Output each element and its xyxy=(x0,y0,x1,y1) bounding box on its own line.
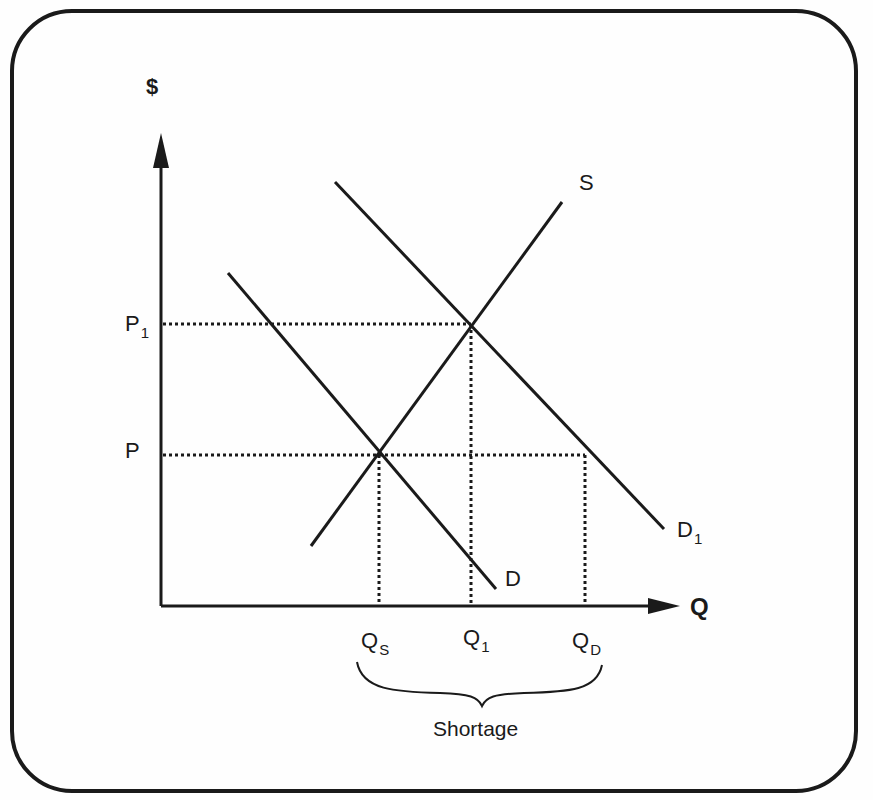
quantity-label-qs: QS xyxy=(361,630,389,652)
demand-label: D xyxy=(505,568,521,590)
x-axis xyxy=(161,598,680,614)
x-axis-label: Q xyxy=(690,595,709,619)
y-axis-label: $ xyxy=(146,76,158,98)
shortage-label: Shortage xyxy=(433,718,518,739)
quantity-label-q1-sub: 1 xyxy=(481,638,489,655)
y-axis-arrow-icon xyxy=(153,133,169,168)
quantity-label-qs-base: Q xyxy=(361,628,378,653)
demand-curve xyxy=(228,273,496,589)
shifted-demand-curve xyxy=(335,182,664,529)
y-axis xyxy=(153,133,169,606)
quantity-label-qd-base: Q xyxy=(572,628,589,653)
shifted-demand-label-sub: 1 xyxy=(694,530,702,547)
shifted-demand-label: D1 xyxy=(677,519,702,541)
quantity-label-qd-sub: D xyxy=(590,641,601,658)
price-label-p1-base: P xyxy=(125,311,140,336)
price-label-p1-sub: 1 xyxy=(141,324,149,341)
shortage-brace xyxy=(357,662,602,706)
quantity-label-q1: Q1 xyxy=(463,627,489,649)
price-label-p: P xyxy=(125,440,140,462)
quantity-label-qs-sub: S xyxy=(379,641,389,658)
shifted-demand-label-base: D xyxy=(677,517,693,542)
quantity-label-q1-base: Q xyxy=(463,625,480,650)
supply-label: S xyxy=(579,172,594,194)
quantity-label-qd: QD xyxy=(572,630,601,652)
reference-lines xyxy=(163,324,585,604)
price-label-p-base: P xyxy=(125,438,140,463)
price-label-p1: P1 xyxy=(125,313,149,335)
supply-demand-diagram xyxy=(0,0,873,800)
x-axis-arrow-icon xyxy=(648,598,680,614)
supply-curve xyxy=(311,202,562,546)
